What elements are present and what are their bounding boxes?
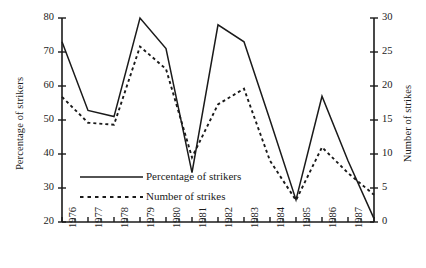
plot-area [0,0,426,268]
chart-figure: Percentage of strikers Number of strikes… [0,0,426,268]
legend-label-number-of-strikes: Number of strikes [146,190,225,202]
series-line [62,18,374,219]
legend-label-percentage-of-strikers: Percentage of strikers [146,170,241,182]
legend-swatches [80,177,143,197]
data-series [62,18,374,219]
